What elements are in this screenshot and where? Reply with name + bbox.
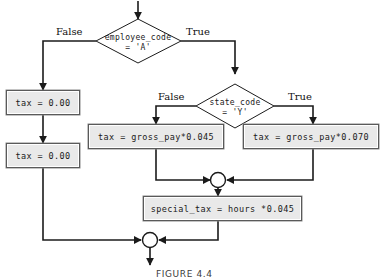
merge-circle-lower: [143, 233, 158, 248]
process-tax-zero-second-text: tax = 0.00: [15, 151, 70, 161]
process-tax-gross-045-inner: tax = gross_pay*0.045: [89, 125, 223, 148]
wire-tax-zero-second-to-merge: [43, 168, 141, 240]
state-code-decision-line1: state_code: [196, 98, 274, 108]
wire-tax045-to-merge: [156, 149, 210, 180]
process-tax-zero-second-inner: tax = 0.00: [7, 144, 79, 167]
wire-state-true: [274, 106, 313, 124]
process-tax-zero-first: tax = 0.00: [6, 90, 80, 115]
merge-circle-upper: [211, 173, 226, 188]
employee-code-decision-label: employee_code = 'A': [92, 33, 184, 53]
figure-caption: FIGURE 4.4: [156, 269, 213, 278]
wire-special-tax-to-merge: [159, 221, 218, 240]
process-tax-gross-045: tax = gross_pay*0.045: [88, 124, 224, 149]
state-code-decision-label: state_code = 'Y': [196, 98, 274, 118]
employee-code-false-label: False: [56, 26, 82, 37]
wire-state-false: [156, 106, 196, 124]
state-code-true-label: True: [288, 91, 312, 102]
process-tax-zero-first-inner: tax = 0.00: [7, 91, 79, 114]
employee-code-decision-line2: = 'A': [92, 43, 184, 53]
employee-code-true-label: True: [186, 26, 210, 37]
flowchart-figure: employee_code = 'A' False True state_cod…: [0, 0, 384, 278]
process-special-tax-text: special_tax = hours *0.045: [151, 204, 294, 214]
process-tax-gross-070-inner: tax = gross_pay*0.070: [244, 125, 378, 148]
wire-employee-true: [181, 41, 235, 74]
process-tax-gross-070: tax = gross_pay*0.070: [243, 124, 379, 149]
wire-tax070-to-merge: [227, 149, 313, 180]
process-tax-zero-first-text: tax = 0.00: [15, 98, 70, 108]
process-tax-zero-second: tax = 0.00: [6, 143, 80, 168]
process-special-tax-inner: special_tax = hours *0.045: [144, 197, 301, 220]
state-code-false-label: False: [158, 91, 184, 102]
wire-employee-false: [43, 41, 96, 90]
process-tax-gross-045-text: tax = gross_pay*0.045: [98, 132, 214, 142]
state-code-decision-line2: = 'Y': [196, 108, 274, 118]
process-special-tax: special_tax = hours *0.045: [143, 196, 302, 221]
employee-code-decision-line1: employee_code: [92, 33, 184, 43]
process-tax-gross-070-text: tax = gross_pay*0.070: [253, 132, 369, 142]
